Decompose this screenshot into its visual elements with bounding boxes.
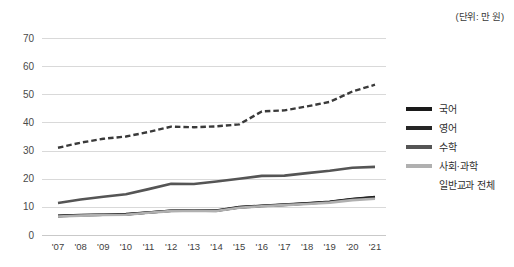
x-axis-tick-label: '13 (188, 241, 200, 252)
legend-line-icon (406, 107, 432, 111)
y-axis-tick-label: 0 (28, 230, 34, 241)
series-line (58, 167, 375, 203)
legend-item[interactable]: 일반교과 전체 (406, 175, 510, 194)
y-axis-tick-label: 50 (23, 89, 35, 100)
legend-line-icon (406, 126, 432, 130)
series-line (58, 85, 375, 148)
legend-item-label: 사회·과학 (439, 158, 477, 173)
legend-item[interactable]: 사회·과학 (406, 156, 510, 175)
series-line (58, 197, 375, 216)
x-axis-tick-label: '10 (120, 241, 132, 252)
legend-item-label: 국어 (439, 101, 457, 116)
x-axis-tick-labels: '07'08'09'10'11'12'13'14'15'16'17'18'19'… (52, 241, 381, 252)
x-axis-tick-label: '21 (369, 241, 381, 252)
legend-item-label: 수학 (439, 139, 457, 154)
x-axis-tick-label: '08 (74, 241, 86, 252)
line-chart: (단위: 만 원) 010203040506070 '07'08'09'10'1… (0, 0, 514, 267)
y-axis-tick-label: 10 (23, 201, 35, 212)
x-axis-tick-label: '14 (210, 241, 222, 252)
legend-item[interactable]: 국어 (406, 99, 510, 118)
x-axis-tick-label: '17 (278, 241, 290, 252)
y-axis-tick-label: 40 (23, 117, 35, 128)
y-axis-tick-label: 30 (23, 145, 35, 156)
y-axis-tick-labels: 010203040506070 (23, 33, 35, 241)
x-axis-tick-label: '19 (324, 241, 336, 252)
x-axis-tick-label: '20 (346, 241, 358, 252)
legend-line-icon (406, 145, 432, 149)
legend-line-icon (406, 164, 432, 168)
legend-item-label: 영어 (439, 120, 457, 135)
x-axis-tick-label: '16 (256, 241, 268, 252)
x-axis-tick-label: '11 (143, 241, 155, 252)
y-axis-tick-label: 20 (23, 173, 35, 184)
x-axis-tick-label: '09 (97, 241, 109, 252)
x-axis-tick-label: '15 (233, 241, 245, 252)
x-axis-tick-label: '07 (52, 241, 64, 252)
legend-item[interactable]: 수학 (406, 137, 510, 156)
series-line (58, 197, 375, 216)
legend-dashed-line-icon (406, 183, 432, 187)
gridlines-group (42, 39, 386, 236)
legend-item-label: 일반교과 전체 (439, 177, 494, 192)
y-axis-tick-label: 60 (23, 61, 35, 72)
chart-legend: 국어영어수학사회·과학일반교과 전체 (406, 99, 510, 194)
x-axis-tick-label: '18 (301, 241, 313, 252)
legend-item[interactable]: 영어 (406, 118, 510, 137)
y-axis-tick-label: 70 (23, 33, 35, 44)
x-axis-tick-label: '12 (165, 241, 177, 252)
